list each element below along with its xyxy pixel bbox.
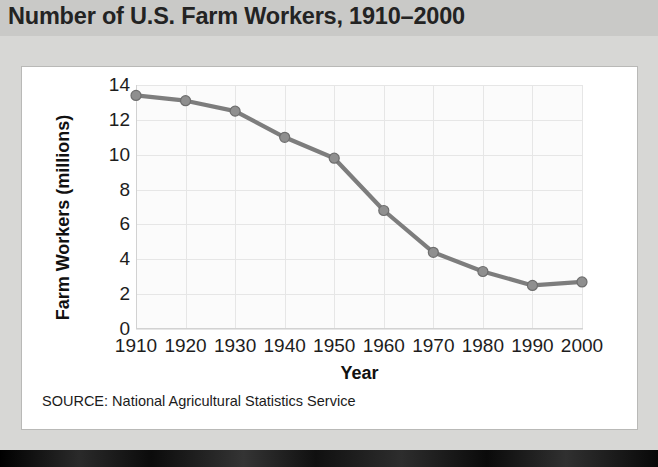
data-point-marker	[478, 266, 488, 276]
data-point-marker	[428, 247, 438, 257]
page-title: Number of U.S. Farm Workers, 1910–2000	[8, 3, 465, 30]
x-tick-label: 1950	[313, 335, 355, 357]
x-tick-label: 1930	[214, 335, 256, 357]
x-axis-title: Year	[136, 363, 583, 384]
gridline-horizontal	[136, 329, 583, 330]
x-tick-label: 1990	[511, 335, 553, 357]
data-point-marker	[527, 280, 537, 290]
series-farm-workers	[136, 85, 583, 329]
title-band: Number of U.S. Farm Workers, 1910–2000	[0, 0, 658, 36]
data-point-marker	[181, 96, 191, 106]
y-tick-label: 12	[94, 109, 130, 131]
y-tick-label: 8	[94, 179, 130, 201]
x-axis-tick-labels: 1910192019301940195019601970198019902000	[136, 335, 583, 361]
x-tick-label: 1970	[412, 335, 454, 357]
data-point-marker	[329, 153, 339, 163]
x-tick-label: 1980	[462, 335, 504, 357]
y-tick-label: 14	[94, 74, 130, 96]
y-tick-label: 2	[94, 283, 130, 305]
y-tick-label: 4	[94, 248, 130, 270]
source-note: SOURCE: National Agricultural Statistics…	[42, 393, 355, 409]
y-tick-label: 10	[94, 144, 130, 166]
plot-area	[136, 85, 583, 329]
chart-panel: 02468101214 1910192019301940195019601970…	[21, 66, 638, 430]
x-tick-label: 1910	[115, 335, 157, 357]
chart-screenshot: Number of U.S. Farm Workers, 1910–2000 0…	[0, 0, 658, 467]
x-tick-label: 2000	[561, 335, 603, 357]
y-tick-label: 6	[94, 213, 130, 235]
x-tick-label: 1940	[264, 335, 306, 357]
data-point-marker	[577, 277, 587, 287]
data-point-marker	[131, 90, 141, 100]
x-tick-label: 1960	[363, 335, 405, 357]
y-axis-title: Farm Workers (millions)	[53, 98, 74, 338]
data-point-marker	[379, 205, 389, 215]
data-point-marker	[280, 132, 290, 142]
y-axis-tick-labels: 02468101214	[90, 85, 130, 329]
series-line	[136, 95, 582, 285]
x-tick-label: 1920	[164, 335, 206, 357]
data-point-marker	[230, 106, 240, 116]
bottom-band	[0, 450, 658, 467]
